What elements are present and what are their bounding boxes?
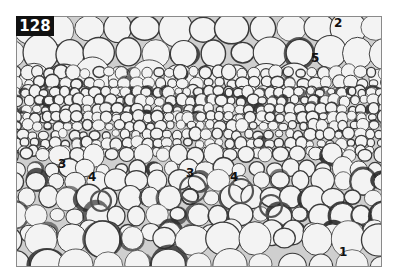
annotation-label-1: 1 xyxy=(339,246,347,258)
micrograph-image xyxy=(17,17,382,267)
micrograph-frame xyxy=(16,16,382,267)
annotation-label-4a: 4 xyxy=(88,171,96,183)
annotation-label-5: 5 xyxy=(311,52,319,64)
annotation-label-3a: 3 xyxy=(58,158,66,170)
annotation-label-2: 2 xyxy=(334,17,342,29)
annotation-label-3b: 3 xyxy=(186,167,194,179)
figure-number-badge: 128 xyxy=(16,16,54,36)
annotation-label-4b: 4 xyxy=(230,171,238,183)
